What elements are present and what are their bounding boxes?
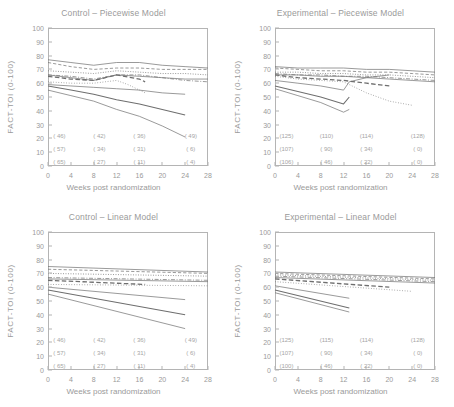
x-tick-mark (435, 162, 436, 166)
y-tick-mark (275, 83, 279, 84)
x-tick-label: 28 (204, 166, 212, 179)
x-tick-mark (70, 162, 71, 166)
y-tick-label: 10 (263, 353, 275, 360)
sample-size-annotation: ( 46) (320, 363, 332, 369)
y-axis-label: FACT-TOI (0-100) (6, 28, 20, 166)
series-line (48, 86, 185, 115)
x-tick-label: 20 (158, 166, 166, 179)
y-tick-label: 40 (36, 107, 48, 114)
y-tick-label: 100 (259, 229, 275, 236)
y-tick-label: 10 (36, 149, 48, 156)
x-tick-label: 8 (92, 370, 96, 383)
y-tick-label: 20 (36, 339, 48, 346)
y-tick-label: 70 (36, 270, 48, 277)
sample-size-annotation: ( 0) (413, 146, 422, 152)
x-tick-label: 4 (69, 370, 73, 383)
sample-size-annotation: ( 34) (93, 350, 105, 356)
y-tick-mark (275, 287, 279, 288)
y-tick-mark (48, 232, 52, 233)
y-tick-label: 100 (32, 25, 48, 32)
x-tick-mark (208, 366, 209, 370)
x-tick-label: 12 (340, 166, 348, 179)
x-tick-label: 16 (363, 370, 371, 383)
x-tick-label: 12 (340, 370, 348, 383)
sample-size-annotation: ( 22) (360, 363, 372, 369)
y-tick-mark (275, 138, 279, 139)
x-tick-label: 8 (319, 370, 323, 383)
series-line (275, 286, 349, 298)
y-tick-label: 50 (36, 94, 48, 101)
y-tick-mark (48, 110, 52, 111)
y-tick-label: 10 (36, 353, 48, 360)
x-tick-label: 20 (385, 166, 393, 179)
x-tick-mark (297, 162, 298, 166)
y-tick-label: 30 (36, 121, 48, 128)
y-tick-label: 50 (36, 298, 48, 305)
y-tick-mark (48, 328, 52, 329)
sample-size-annotation: ( 46) (320, 159, 332, 165)
sample-size-annotation: ( 22) (360, 159, 372, 165)
figure-panel-grid: Control – Piecewise Model FACT-TOI (0-10… (0, 0, 454, 407)
y-tick-mark (275, 356, 279, 357)
x-tick-mark (70, 366, 71, 370)
curve-layer (275, 232, 435, 370)
y-tick-mark (275, 328, 279, 329)
sample-size-annotation: ( 46) (53, 133, 65, 139)
sample-size-annotation: (114) (360, 337, 374, 343)
y-tick-mark (48, 245, 52, 246)
panel-experimental-piecewise: Experimental – Piecewise Model FACT-TOI … (227, 0, 454, 203)
y-tick-label: 10 (263, 149, 275, 156)
y-tick-mark (48, 287, 52, 288)
sample-size-annotation: ( 42) (93, 337, 105, 343)
series-line (275, 86, 349, 104)
sample-size-annotation: ( 31) (133, 146, 145, 152)
x-tick-label: 28 (431, 370, 439, 383)
x-tick-mark (162, 162, 163, 166)
sample-size-annotation: ( 27) (93, 363, 105, 369)
series-line (275, 282, 412, 292)
y-tick-label: 20 (263, 135, 275, 142)
x-tick-mark (208, 162, 209, 166)
panel-title: Experimental – Piecewise Model (227, 8, 454, 18)
series-line (48, 90, 185, 137)
x-tick-label: 28 (204, 370, 212, 383)
sample-size-annotation: (107) (279, 146, 293, 152)
sample-size-annotation: ( 65) (53, 159, 65, 165)
curve-layer (275, 28, 435, 166)
x-tick-label: 24 (181, 166, 189, 179)
x-tick-mark (275, 162, 276, 166)
x-tick-mark (343, 366, 344, 370)
y-tick-label: 50 (263, 298, 275, 305)
sample-size-annotation: (125) (279, 337, 293, 343)
y-tick-mark (48, 28, 52, 29)
series-line (275, 89, 349, 112)
series-line (48, 278, 208, 281)
y-tick-label: 100 (259, 25, 275, 32)
sample-size-annotation: ( 42) (93, 133, 105, 139)
x-tick-label: 0 (46, 370, 50, 383)
y-tick-mark (48, 342, 52, 343)
y-tick-label: 30 (36, 325, 48, 332)
x-tick-label: 24 (408, 166, 416, 179)
sample-size-annotation: (114) (360, 133, 374, 139)
x-tick-label: 4 (69, 166, 73, 179)
x-tick-label: 28 (431, 166, 439, 179)
series-line (275, 290, 349, 308)
series-line (48, 273, 208, 276)
x-tick-label: 16 (136, 370, 144, 383)
y-tick-mark (275, 259, 279, 260)
y-tick-mark (275, 273, 279, 274)
series-line (48, 60, 208, 68)
y-tick-label: 70 (36, 66, 48, 73)
y-tick-mark (275, 110, 279, 111)
y-tick-label: 90 (36, 242, 48, 249)
series-line (48, 284, 208, 285)
sample-size-annotation: ( 31) (133, 350, 145, 356)
x-tick-mark (389, 366, 390, 370)
x-tick-label: 0 (273, 166, 277, 179)
sample-size-annotation: (115) (320, 337, 334, 343)
y-tick-mark (275, 152, 279, 153)
sample-size-annotation: ( 57) (53, 146, 65, 152)
y-tick-mark (48, 124, 52, 125)
curve-layer (48, 232, 208, 370)
